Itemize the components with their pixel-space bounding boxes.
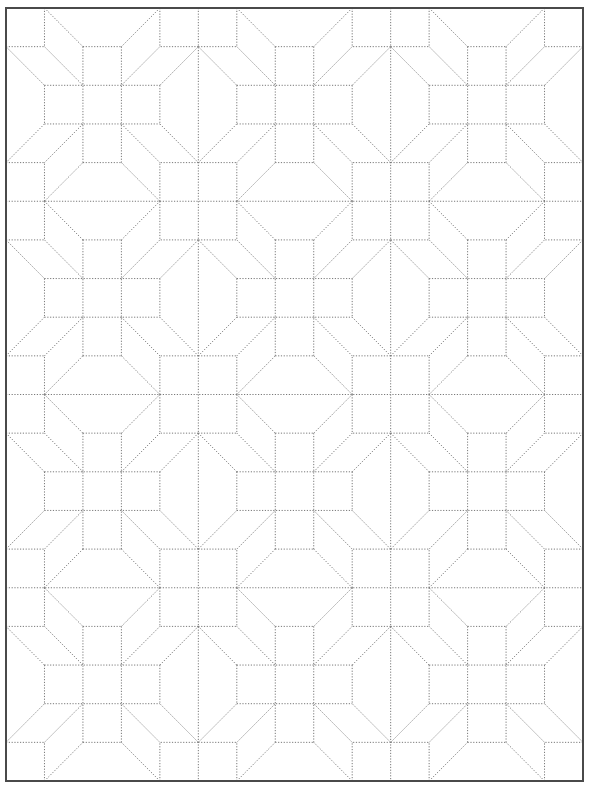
- quilt-pattern-sheet: [0, 0, 593, 788]
- page-background: [0, 0, 593, 788]
